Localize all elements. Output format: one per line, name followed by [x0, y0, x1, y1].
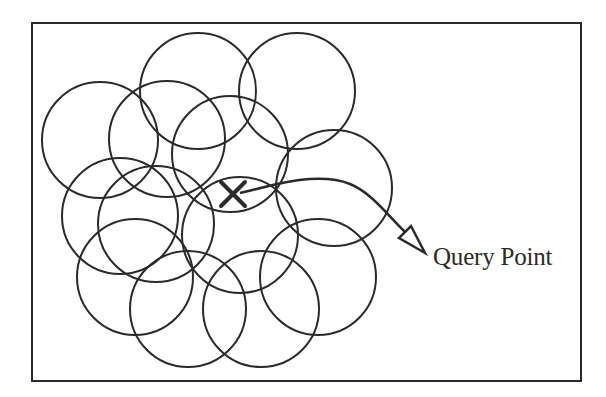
region-circle-G	[62, 158, 178, 274]
query-point-label: Query Point	[433, 243, 552, 271]
region-circle-K	[182, 177, 298, 293]
circle-group	[42, 33, 392, 367]
region-circle-F	[276, 130, 392, 246]
region-circle-J	[130, 251, 246, 367]
kd-circle-diagram	[0, 0, 606, 397]
figure-frame	[32, 23, 581, 381]
query-cross-icon	[221, 182, 245, 206]
